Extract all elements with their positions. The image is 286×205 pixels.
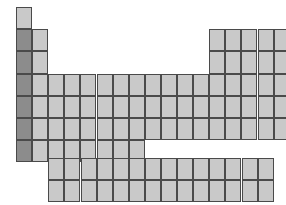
element-cell-period-6-group-3[interactable]	[48, 118, 64, 140]
element-cell-period-5-group-1[interactable]	[16, 96, 32, 118]
fblock-cell-lanthanide-row-3[interactable]	[81, 158, 97, 180]
element-cell-period-5-group-8[interactable]	[129, 96, 145, 118]
element-cell-period-4-group-6[interactable]	[97, 74, 113, 96]
element-cell-period-4-group-14[interactable]	[225, 74, 241, 96]
element-cell-period-5-group-6[interactable]	[97, 96, 113, 118]
fblock-cell-lanthanide-row-2[interactable]	[64, 158, 80, 180]
fblock-cell-actinide-row-9[interactable]	[177, 180, 193, 202]
fblock-cell-actinide-row-3[interactable]	[81, 180, 97, 202]
fblock-cell-actinide-row-4[interactable]	[97, 180, 113, 202]
element-cell-period-6-group-15[interactable]	[241, 118, 257, 140]
element-cell-period-2-group-15[interactable]	[241, 29, 257, 51]
element-cell-period-4-group-15[interactable]	[241, 74, 257, 96]
element-cell-period-4-group-7[interactable]	[113, 74, 129, 96]
element-cell-period-4-group-13[interactable]	[209, 74, 225, 96]
element-cell-period-7-group-1[interactable]	[16, 140, 32, 162]
fblock-cell-lanthanide-row-11[interactable]	[209, 158, 225, 180]
element-cell-period-3-group-1[interactable]	[16, 51, 32, 73]
element-cell-period-6-group-7[interactable]	[113, 118, 129, 140]
element-cell-period-2-group-16[interactable]	[258, 29, 274, 51]
fblock-cell-actinide-row-8[interactable]	[161, 180, 177, 202]
fblock-cell-lanthanide-row-6[interactable]	[129, 158, 145, 180]
element-cell-period-6-group-5[interactable]	[80, 118, 96, 140]
periodic-table-figure	[0, 0, 286, 205]
element-cell-period-5-group-17[interactable]	[274, 96, 286, 118]
element-cell-period-4-group-17[interactable]	[274, 74, 286, 96]
element-cell-period-4-group-4[interactable]	[64, 74, 80, 96]
fblock-cell-actinide-row-10[interactable]	[193, 180, 209, 202]
element-cell-period-6-group-4[interactable]	[64, 118, 80, 140]
element-cell-period-5-group-4[interactable]	[64, 96, 80, 118]
element-cell-period-6-group-8[interactable]	[129, 118, 145, 140]
element-cell-period-4-group-11[interactable]	[177, 74, 193, 96]
element-cell-period-2-group-13[interactable]	[209, 29, 225, 51]
element-cell-period-4-group-9[interactable]	[145, 74, 161, 96]
element-cell-period-5-group-7[interactable]	[113, 96, 129, 118]
element-cell-period-1-group-1[interactable]	[16, 7, 32, 29]
element-cell-period-5-group-9[interactable]	[145, 96, 161, 118]
element-cell-period-2-group-2[interactable]	[32, 29, 48, 51]
element-cell-period-4-group-10[interactable]	[161, 74, 177, 96]
fblock-cell-lanthanide-row-5[interactable]	[113, 158, 129, 180]
fblock-cell-actinide-row-14[interactable]	[258, 180, 274, 202]
fblock-cell-lanthanide-row-8[interactable]	[161, 158, 177, 180]
element-cell-period-4-group-12[interactable]	[193, 74, 209, 96]
element-cell-period-6-group-11[interactable]	[177, 118, 193, 140]
element-cell-period-3-group-17[interactable]	[274, 51, 286, 73]
element-cell-period-4-group-3[interactable]	[48, 74, 64, 96]
element-cell-period-2-group-14[interactable]	[225, 29, 241, 51]
fblock-cell-actinide-row-6[interactable]	[129, 180, 145, 202]
element-cell-period-5-group-13[interactable]	[209, 96, 225, 118]
element-cell-period-5-group-14[interactable]	[225, 96, 241, 118]
element-cell-period-4-group-16[interactable]	[258, 74, 274, 96]
fblock-cell-actinide-row-7[interactable]	[145, 180, 161, 202]
element-cell-period-3-group-16[interactable]	[258, 51, 274, 73]
fblock-cell-actinide-row-1[interactable]	[48, 180, 64, 202]
fblock-cell-lanthanide-row-12[interactable]	[225, 158, 241, 180]
fblock-cell-lanthanide-row-7[interactable]	[145, 158, 161, 180]
element-cell-period-6-group-17[interactable]	[274, 118, 286, 140]
element-cell-period-5-group-11[interactable]	[177, 96, 193, 118]
fblock-cell-lanthanide-row-10[interactable]	[193, 158, 209, 180]
element-cell-period-4-group-8[interactable]	[129, 74, 145, 96]
element-cell-period-6-group-14[interactable]	[225, 118, 241, 140]
element-cell-period-5-group-3[interactable]	[48, 96, 64, 118]
element-cell-period-2-group-17[interactable]	[274, 29, 286, 51]
element-cell-period-4-group-1[interactable]	[16, 74, 32, 96]
element-cell-period-5-group-16[interactable]	[258, 96, 274, 118]
element-cell-period-4-group-5[interactable]	[80, 74, 96, 96]
fblock-cell-lanthanide-row-13[interactable]	[242, 158, 258, 180]
element-cell-period-6-group-2[interactable]	[32, 118, 48, 140]
element-cell-period-6-group-12[interactable]	[193, 118, 209, 140]
fblock-cell-actinide-row-13[interactable]	[242, 180, 258, 202]
element-cell-period-5-group-5[interactable]	[80, 96, 96, 118]
element-cell-period-6-group-13[interactable]	[209, 118, 225, 140]
element-cell-period-3-group-2[interactable]	[32, 51, 48, 73]
fblock-cell-lanthanide-row-4[interactable]	[97, 158, 113, 180]
fblock-cell-actinide-row-5[interactable]	[113, 180, 129, 202]
element-cell-period-3-group-15[interactable]	[241, 51, 257, 73]
fblock-cell-actinide-row-12[interactable]	[225, 180, 241, 202]
fblock-cell-lanthanide-row-9[interactable]	[177, 158, 193, 180]
element-cell-period-5-group-12[interactable]	[193, 96, 209, 118]
element-cell-period-5-group-10[interactable]	[161, 96, 177, 118]
element-cell-period-3-group-13[interactable]	[209, 51, 225, 73]
element-cell-period-6-group-9[interactable]	[145, 118, 161, 140]
fblock-cell-lanthanide-row-14[interactable]	[258, 158, 274, 180]
fblock-cell-lanthanide-row-1[interactable]	[48, 158, 64, 180]
element-cell-period-5-group-2[interactable]	[32, 96, 48, 118]
element-cell-period-2-group-1[interactable]	[16, 29, 32, 51]
element-cell-period-7-group-2[interactable]	[32, 140, 48, 162]
element-cell-period-6-group-16[interactable]	[258, 118, 274, 140]
element-cell-period-6-group-1[interactable]	[16, 118, 32, 140]
fblock-cell-actinide-row-2[interactable]	[64, 180, 80, 202]
element-cell-period-6-group-6[interactable]	[97, 118, 113, 140]
fblock-cell-actinide-row-11[interactable]	[209, 180, 225, 202]
element-cell-period-3-group-14[interactable]	[225, 51, 241, 73]
element-cell-period-5-group-15[interactable]	[241, 96, 257, 118]
element-cell-period-4-group-2[interactable]	[32, 74, 48, 96]
element-cell-period-6-group-10[interactable]	[161, 118, 177, 140]
